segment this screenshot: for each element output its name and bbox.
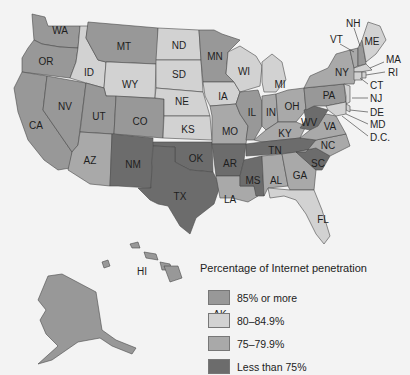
state-ri <box>362 72 366 78</box>
label-ia: IA <box>218 91 228 102</box>
legend-item-85-or-more: 85% or more <box>208 286 410 309</box>
label-ny: NY <box>335 67 349 78</box>
state-hi-1 <box>102 260 110 268</box>
label-mi: MI <box>274 79 285 90</box>
label-ne: NE <box>175 96 189 107</box>
label-tn: TN <box>268 145 281 156</box>
label-mn: MN <box>207 51 223 62</box>
legend: Percentage of Internet penetration 85% o… <box>200 262 410 375</box>
label-wa: WA <box>52 25 68 36</box>
label-ut: UT <box>92 111 105 122</box>
label-wi: WI <box>238 66 250 77</box>
label-ar: AR <box>223 158 237 169</box>
label-la: LA <box>224 194 237 205</box>
label-id: ID <box>84 67 94 78</box>
label-ct: CT <box>370 80 383 91</box>
label-nm: NM <box>125 159 141 170</box>
label-vt: VT <box>330 34 343 45</box>
label-oh: OH <box>285 101 300 112</box>
state-de <box>346 104 350 112</box>
legend-item-less-than-75: Less than 75% <box>208 355 410 375</box>
label-wv: WV <box>301 117 317 128</box>
label-va: VA <box>324 121 337 132</box>
label-nj: NJ <box>370 93 382 104</box>
label-wy: WY <box>122 79 138 90</box>
leader-de <box>350 110 368 112</box>
label-ks: KS <box>181 124 195 135</box>
legend-item-80-84: 80–84.9% <box>208 309 410 332</box>
leader-md <box>346 114 368 124</box>
label-mo: MO <box>222 126 238 137</box>
state-hi-5 <box>164 266 182 282</box>
legend-swatch-80-84 <box>208 313 230 328</box>
label-dc: D.C. <box>370 132 390 143</box>
legend-label: Less than 75% <box>237 361 306 373</box>
label-pa: PA <box>323 90 336 101</box>
label-tx: TX <box>174 191 187 202</box>
state-hi-2 <box>130 242 140 248</box>
label-az: AZ <box>84 155 97 166</box>
label-me: ME <box>365 36 380 47</box>
label-sc: SC <box>311 158 325 169</box>
label-ky: KY <box>278 128 292 139</box>
label-ok: OK <box>189 153 204 164</box>
leader-nh <box>354 28 360 46</box>
label-or: OR <box>39 56 54 67</box>
label-mt: MT <box>117 41 131 52</box>
leader-ma <box>370 62 384 68</box>
label-ms: MS <box>246 175 261 186</box>
label-ca: CA <box>29 120 43 131</box>
label-de: DE <box>370 107 384 118</box>
label-il: IL <box>248 107 257 118</box>
legend-item-75-79: 75–79.9% <box>208 332 410 355</box>
label-nd: ND <box>172 40 186 51</box>
legend-swatch-75-79 <box>208 336 230 351</box>
label-co: CO <box>133 116 148 127</box>
label-ma: MA <box>386 54 401 65</box>
label-ri: RI <box>388 67 398 78</box>
legend-swatch-85-or-more <box>208 290 230 305</box>
leader-ri <box>366 72 385 75</box>
label-nv: NV <box>58 101 72 112</box>
label-nh: NH <box>346 18 360 29</box>
label-al: AL <box>270 175 283 186</box>
label-md: MD <box>370 119 386 130</box>
legend-label: 80–84.9% <box>237 315 284 327</box>
legend-swatch-less-than-75 <box>208 359 230 374</box>
label-nc: NC <box>321 140 335 151</box>
state-hi-3 <box>144 252 158 260</box>
label-in: IN <box>266 107 276 118</box>
label-hi: HI <box>137 266 147 277</box>
legend-title: Percentage of Internet penetration <box>200 262 410 274</box>
leader-dc <box>342 116 368 136</box>
state-ak <box>38 274 136 364</box>
label-ga: GA <box>293 170 308 181</box>
label-sd: SD <box>172 69 186 80</box>
label-fl: FL <box>317 214 329 225</box>
legend-label: 75–79.9% <box>237 338 284 350</box>
leader-ct <box>360 78 368 84</box>
legend-label: 85% or more <box>237 292 297 304</box>
